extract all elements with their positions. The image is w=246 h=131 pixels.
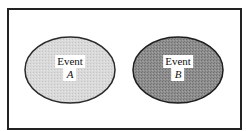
venn-diagram [0, 0, 246, 131]
event-b-label: Event B [163, 55, 193, 81]
event-a-label: Event A [55, 55, 85, 81]
event-b-letter: B [172, 68, 185, 81]
event-b-word: Event [163, 55, 193, 68]
event-a-word: Event [55, 55, 85, 68]
event-a-letter: A [64, 68, 77, 81]
